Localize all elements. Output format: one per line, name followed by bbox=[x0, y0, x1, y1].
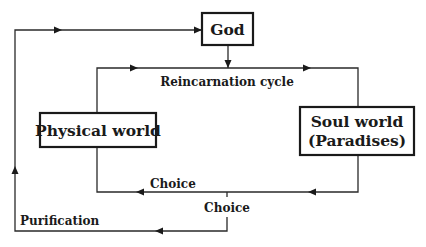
arrow-down-icon bbox=[225, 60, 232, 68]
reincarnation-cycle-label: Reincarnation cycle bbox=[160, 75, 294, 89]
node-god: God bbox=[202, 13, 253, 45]
paradises-label: (Paradises) bbox=[308, 131, 406, 150]
god-connector bbox=[225, 45, 232, 68]
arrow-left-icon bbox=[155, 228, 163, 235]
soul-world-label: Soul world bbox=[311, 112, 404, 131]
arrow-right-icon bbox=[54, 27, 62, 34]
node-soul-world: Soul world (Paradises) bbox=[300, 107, 414, 155]
arrow-up-icon bbox=[12, 166, 19, 174]
purification-label: Purification bbox=[20, 214, 100, 228]
choice-label-branch: Choice bbox=[204, 201, 250, 215]
god-label: God bbox=[210, 20, 245, 39]
arrow-left-icon bbox=[136, 189, 144, 196]
physical-world-label: Physical world bbox=[35, 121, 161, 140]
diagram-canvas: God Physical world Soul world (Paradises… bbox=[0, 0, 426, 247]
arrow-right-icon bbox=[303, 65, 311, 72]
choice-label-inner: Choice bbox=[150, 177, 196, 191]
node-physical-world: Physical world bbox=[35, 113, 161, 147]
arrow-right-icon bbox=[194, 27, 202, 34]
arrow-left-icon bbox=[308, 189, 316, 196]
arrow-right-icon bbox=[130, 65, 138, 72]
